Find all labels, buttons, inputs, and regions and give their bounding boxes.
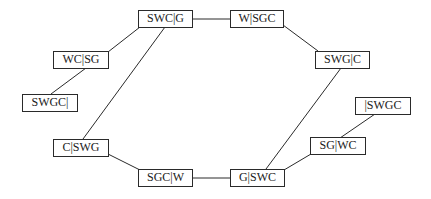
edge-wsgc-swgc bbox=[283, 25, 318, 51]
edge-swcg-cswg bbox=[83, 27, 165, 139]
edge-swgc-wcsg bbox=[51, 68, 86, 94]
state-node-g-swc: G|SWC bbox=[230, 169, 285, 187]
state-node-swgc-empty: SWGC| bbox=[22, 94, 78, 112]
edge-wcsg-swcg bbox=[108, 27, 140, 52]
state-node-swg-c: SWG|C bbox=[315, 51, 370, 69]
state-node-c-swg: C|SWG bbox=[53, 139, 109, 157]
state-node-sgc-w: SGC|W bbox=[138, 169, 193, 187]
state-node-sg-wc: SG|WC bbox=[310, 137, 366, 155]
state-node-swc-g: SWC|G bbox=[138, 10, 193, 28]
edge-gswc-sgwc bbox=[284, 154, 311, 170]
state-node-empty-swgc: |SWGC bbox=[355, 97, 411, 115]
state-node-w-sgc: W|SGC bbox=[230, 10, 284, 28]
edge-cswg-sgcw bbox=[108, 154, 140, 170]
edge-sgwc-swgc bbox=[340, 114, 375, 138]
state-node-wc-sg: WC|SG bbox=[53, 51, 109, 69]
